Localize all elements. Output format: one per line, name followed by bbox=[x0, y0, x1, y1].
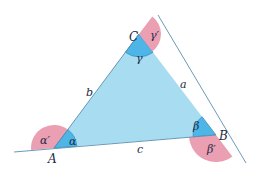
vertex-label-a: A bbox=[47, 152, 57, 166]
angle-label-alpha: α bbox=[69, 135, 77, 148]
angle-label-alpha-prime: α′ bbox=[40, 134, 50, 147]
angle-label-beta-prime: β′ bbox=[206, 143, 216, 156]
angle-label-gamma-prime: γ′ bbox=[150, 29, 160, 42]
vertex-label-c: C bbox=[129, 30, 138, 44]
vertex-label-b: B bbox=[218, 129, 228, 143]
triangle-diagram: A B C a b c α β γ α′ β′ γ′ bbox=[0, 0, 258, 175]
angle-label-beta: β bbox=[192, 120, 199, 133]
side-label-a: a bbox=[180, 78, 187, 91]
angle-label-gamma: γ bbox=[136, 52, 143, 65]
side-label-b: b bbox=[86, 86, 93, 99]
side-label-c: c bbox=[137, 143, 143, 156]
